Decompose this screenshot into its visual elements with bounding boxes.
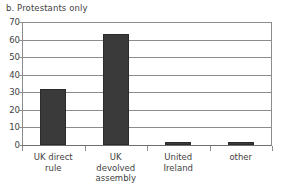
x-category-label: UKdevolvedassembly [85, 152, 148, 184]
x-category-label-line: United [147, 152, 210, 163]
bar [40, 89, 66, 145]
x-tick-mark-0 [22, 146, 23, 151]
x-tick-mark-4 [272, 146, 273, 151]
x-category-label-line: UK [85, 152, 148, 163]
gridline-60 [22, 40, 272, 41]
x-category-label-line: other [210, 152, 273, 163]
y-tick-label-50: 50 [2, 53, 20, 62]
gridline-70 [22, 22, 272, 23]
bar [165, 142, 191, 146]
y-tick-label-60: 60 [2, 35, 20, 44]
x-category-label-line: assembly [85, 173, 148, 184]
x-category-label-line: rule [22, 163, 85, 174]
x-category-label: other [210, 152, 273, 163]
y-tick-label-30: 30 [2, 88, 20, 97]
y-tick-label-0: 0 [2, 141, 20, 150]
x-tick-mark-1 [85, 146, 86, 151]
x-category-label-line: devolved [85, 163, 148, 174]
plot-area [22, 22, 272, 145]
x-category-label: UK directrule [22, 152, 85, 173]
y-tick-label-10: 10 [2, 123, 20, 132]
x-category-label-line: UK direct [22, 152, 85, 163]
y-axis-labels: 010203040506070 [0, 0, 20, 194]
plot-right-edge [271, 22, 272, 146]
gridline-50 [22, 57, 272, 58]
x-category-label-line: Ireland [147, 163, 210, 174]
x-tick-mark-2 [147, 146, 148, 151]
bar [103, 34, 129, 145]
y-tick-label-70: 70 [2, 18, 20, 27]
x-tick-mark-3 [210, 146, 211, 151]
x-category-label: UnitedIreland [147, 152, 210, 173]
y-tick-label-40: 40 [2, 70, 20, 79]
bar [228, 142, 254, 146]
y-tick-label-20: 20 [2, 106, 20, 115]
chart-figure: b. Protestants only 010203040506070 UK d… [0, 0, 283, 194]
gridline-40 [22, 75, 272, 76]
